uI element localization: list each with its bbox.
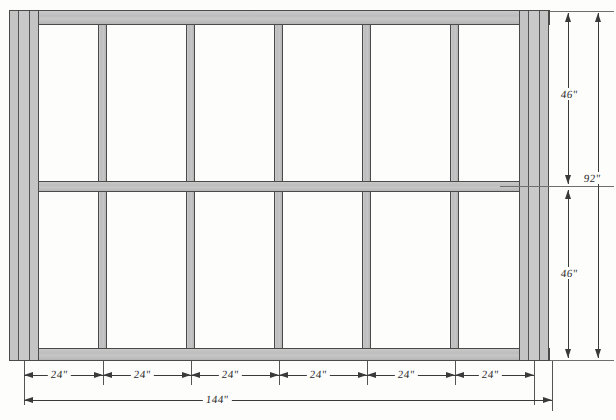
arrow-seg-6-right	[525, 372, 534, 378]
arrow-seg-1-left	[24, 372, 33, 378]
dim-label-seg-1: 24"	[47, 368, 71, 380]
arrow-seg-2-left	[103, 372, 112, 378]
end-post-left	[9, 10, 39, 361]
arrow-seg-5-left	[367, 372, 376, 378]
arrow-overall-144-left	[24, 397, 33, 403]
arrow-seg-2-right	[182, 372, 191, 378]
dim-label-overall-144: 144"	[202, 393, 232, 405]
dim-label-seg-4: 24"	[306, 368, 330, 380]
arrow-seg-3-right	[270, 372, 279, 378]
arrow-upper-46-top	[565, 13, 571, 22]
dim-label-overall-92: 92"	[580, 172, 604, 184]
stud-4-upper	[362, 24, 371, 182]
arrow-seg-6-left	[455, 372, 464, 378]
arrow-overall-144-right	[543, 397, 552, 403]
stud-2-lower	[186, 191, 195, 349]
dim-label-seg-2: 24"	[130, 368, 154, 380]
arrow-lower-46-top	[565, 190, 571, 199]
dim-label-seg-5: 24"	[394, 368, 418, 380]
dim-label-upper-46: 46"	[557, 88, 581, 100]
framing-drawing: 46" 46" 92" 24" 24" 24" 24" 24" 24"	[0, 0, 616, 420]
bottom-plate	[10, 348, 550, 361]
ext-line-bottom	[550, 360, 614, 361]
ext-line-top	[550, 11, 614, 12]
ext-tick-right-edge	[552, 361, 553, 411]
stud-4-lower	[362, 191, 371, 349]
dimline-overall-92	[598, 13, 599, 358]
stud-3-lower	[274, 191, 283, 349]
arrow-seg-4-right	[358, 372, 367, 378]
arrow-seg-3-left	[191, 372, 200, 378]
arrow-overall-92-top	[595, 13, 601, 22]
arrow-lower-46-bottom	[565, 349, 571, 358]
stud-5-lower	[450, 191, 459, 349]
dimline-overall-144	[24, 400, 552, 401]
stud-2-upper	[186, 24, 195, 182]
stud-1-upper	[98, 24, 107, 182]
stud-3-upper	[274, 24, 283, 182]
arrow-overall-92-bottom	[595, 349, 601, 358]
arrow-seg-4-left	[279, 372, 288, 378]
top-plate	[10, 10, 550, 25]
arrow-upper-46-bottom	[565, 175, 571, 184]
dim-label-seg-3: 24"	[218, 368, 242, 380]
ext-tick-6	[534, 361, 535, 405]
stud-1-lower	[98, 191, 107, 349]
dim-label-lower-46: 46"	[557, 267, 581, 279]
ext-line-mid	[500, 186, 614, 187]
arrow-seg-1-right	[94, 372, 103, 378]
dim-label-seg-6: 24"	[478, 368, 502, 380]
arrow-seg-5-right	[446, 372, 455, 378]
stud-5-upper	[450, 24, 459, 182]
